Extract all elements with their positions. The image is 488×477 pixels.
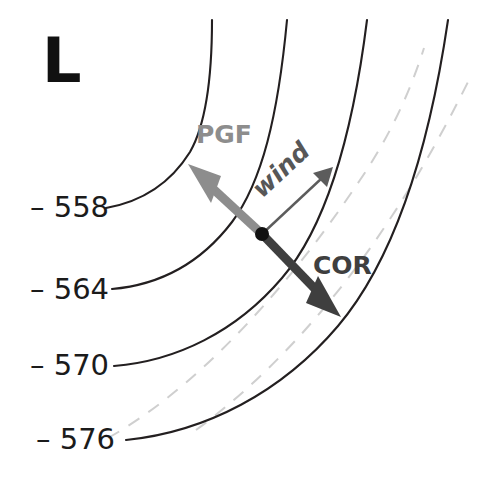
radial-guide-lines (108, 48, 470, 438)
contour-576 (126, 20, 448, 440)
height-contours (106, 20, 448, 440)
cor-label: COR (313, 251, 372, 280)
pgf-label: PGF (196, 120, 252, 149)
contour-label-564: – 564 (30, 272, 109, 306)
pgf-arrow-shaft (210, 186, 262, 234)
contour-564 (112, 20, 287, 289)
contour-label-576: – 576 (36, 422, 115, 456)
air-parcel-dot (255, 227, 269, 241)
low-pressure-symbol: L (42, 24, 82, 97)
cor-arrow-shaft (262, 234, 317, 291)
contour-label-558: – 558 (30, 190, 109, 224)
contour-label-570: – 570 (30, 348, 109, 382)
contour-558 (106, 20, 212, 208)
diagram-canvas: L – 558 – 564 – 570 – 576 PGF wind COR (0, 0, 488, 477)
contour-570 (114, 20, 367, 366)
pgf-arrow (188, 164, 262, 234)
geostrophic-balance-diagram: L – 558 – 564 – 570 – 576 PGF wind COR (0, 0, 488, 477)
